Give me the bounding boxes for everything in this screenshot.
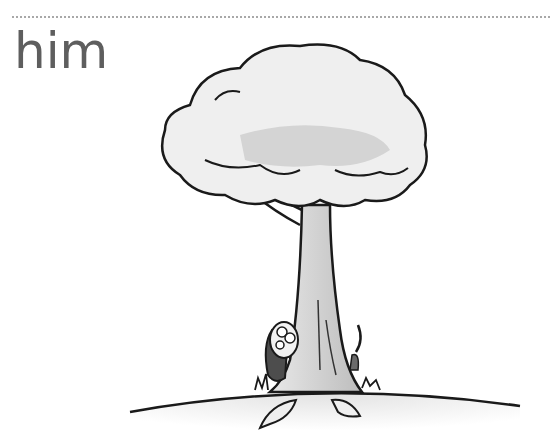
tree-canopy [162,45,427,206]
tree-illustration [0,0,550,446]
ground-hill [130,393,520,446]
tree-trunk [240,178,362,392]
